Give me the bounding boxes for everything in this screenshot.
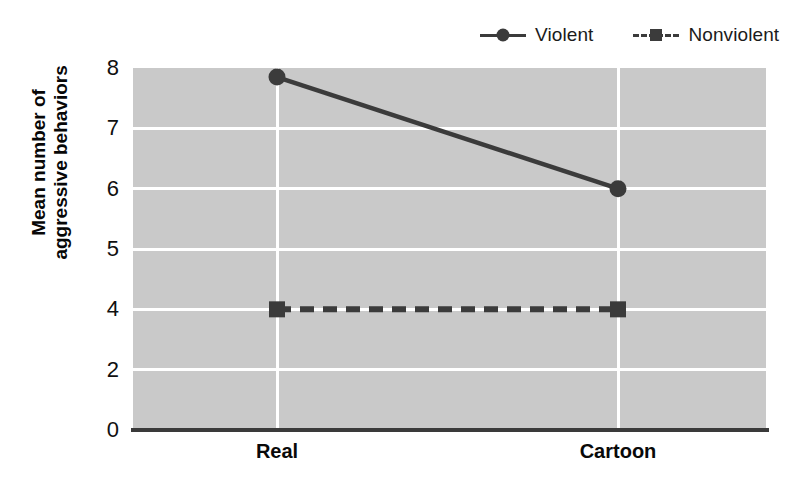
y-axis-title: Mean number of aggressive behaviors bbox=[28, 7, 73, 317]
y-axis-tick-label: 2 bbox=[91, 357, 119, 383]
x-axis-tick-label: Cartoon bbox=[580, 440, 657, 463]
legend-item-violent: Violent bbox=[480, 24, 593, 46]
x-axis-tick-label: Real bbox=[256, 440, 298, 463]
y-axis-tick-labels: 8765420 bbox=[85, 0, 119, 488]
y-axis-tick-label: 8 bbox=[91, 55, 119, 81]
legend-swatch-violent bbox=[480, 26, 526, 44]
y-axis-tick-label: 5 bbox=[91, 236, 119, 262]
legend-label-violent: Violent bbox=[535, 24, 593, 46]
y-axis-tick-label: 6 bbox=[91, 176, 119, 202]
x-axis-line bbox=[131, 428, 769, 432]
legend-label-nonviolent: Nonviolent bbox=[688, 24, 779, 46]
gridline-horizontal bbox=[133, 248, 766, 251]
x-axis-tick-labels: RealCartoon bbox=[0, 440, 809, 474]
y-axis-title-line2: aggressive behaviors bbox=[50, 7, 72, 317]
gridline-horizontal bbox=[133, 368, 766, 371]
gridline-vertical bbox=[276, 68, 279, 430]
plot-area bbox=[133, 68, 766, 430]
circle-marker-icon bbox=[497, 29, 510, 42]
legend-swatch-nonviolent bbox=[633, 26, 679, 44]
y-axis-tick-label: 4 bbox=[91, 296, 119, 322]
square-marker-icon bbox=[650, 29, 662, 41]
gridline-horizontal bbox=[133, 127, 766, 130]
y-axis-title-line1: Mean number of bbox=[28, 7, 50, 317]
gridline-horizontal bbox=[133, 308, 766, 311]
gridline-horizontal bbox=[133, 187, 766, 190]
y-axis-tick-label: 7 bbox=[91, 115, 119, 141]
line-chart-figure: Violent Nonviolent 8765420 RealCartoon M… bbox=[0, 0, 809, 488]
gridline-vertical bbox=[617, 68, 620, 430]
legend-item-nonviolent: Nonviolent bbox=[633, 24, 779, 46]
chart-legend: Violent Nonviolent bbox=[480, 18, 790, 52]
